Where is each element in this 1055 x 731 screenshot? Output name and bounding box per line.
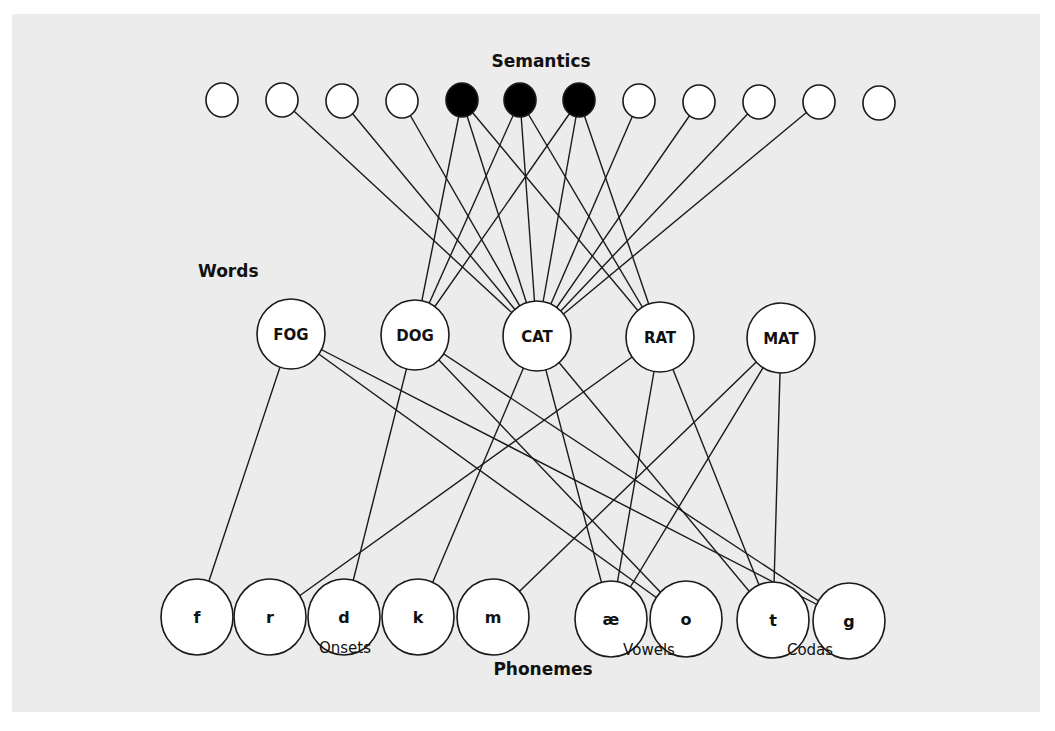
semantic-word-edge [537,101,639,336]
word-node-label: FOG [273,326,308,344]
semantic-node [803,85,835,119]
phoneme-node-label: o [681,610,692,629]
word-phoneme-edge [415,335,686,619]
word-node-label: MAT [763,330,799,348]
word-layer: FOGDOGCATRATMAT [257,299,815,373]
network-diagram: FOGDOGCATRATMAT frdkmæotg Semantics Word… [0,0,1055,731]
word-phoneme-edge [291,334,849,621]
semantic-node [743,85,775,119]
phoneme-node-r: r [234,579,306,655]
word-node-rat: RAT [626,302,694,372]
word-node-label: CAT [521,328,553,346]
phoneme-node-k: k [382,579,454,655]
word-phoneme-edge [197,334,291,617]
vowels-group-label: Vowels [623,641,675,659]
word-node-dog: DOG [381,300,449,370]
word-node-label: DOG [396,327,434,345]
word-phoneme-edge [344,335,415,617]
semantic-node [266,83,298,117]
semantic-word-edge [415,100,520,335]
words-layer-label: Words [198,261,259,281]
phoneme-node-f: f [161,579,233,655]
phonemes-layer-label: Phonemes [493,659,592,679]
semantic-node-active [563,83,595,117]
phoneme-node-label: æ [603,610,620,629]
semantic-layer [206,83,895,120]
semantic-node [863,86,895,120]
word-node-mat: MAT [747,303,815,373]
phoneme-node-label: k [413,608,424,627]
onsets-group-label: Onsets [319,639,371,657]
word-node-label: RAT [644,329,677,347]
semantic-node [206,83,238,117]
phoneme-node-label: r [266,608,274,627]
word-phoneme-edge [773,338,781,620]
semantic-node-active [504,83,536,117]
semantic-node [386,84,418,118]
phoneme-layer: frdkmæotg [161,579,885,659]
semantic-node [326,84,358,118]
word-node-cat: CAT [503,301,571,371]
word-phoneme-edge [270,337,660,617]
word-phoneme-edge [418,336,537,617]
semantic-word-edge [537,100,579,336]
phoneme-node-label: g [843,612,854,631]
codas-group-label: Codas [787,641,833,659]
semantic-node-active [446,83,478,117]
semantic-word-edge [537,102,819,336]
semantic-node [623,84,655,118]
phoneme-node-m: m [457,579,529,655]
semantics-layer-label: Semantics [491,51,590,71]
phoneme-node-label: d [338,608,349,627]
word-phoneme-edge [415,335,849,621]
word-node-fog: FOG [257,299,325,369]
phoneme-node-label: m [485,608,502,627]
phoneme-node-label: f [194,608,202,627]
word-phoneme-edge [291,334,686,619]
semantic-node [683,85,715,119]
phoneme-node-label: t [769,611,777,630]
word-phoneme-edge [537,336,611,619]
